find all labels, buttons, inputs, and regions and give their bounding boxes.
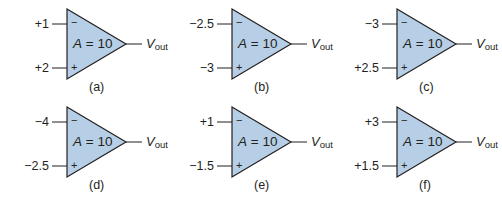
gain-rest: = 10	[412, 36, 442, 51]
inverting-input-value: −3	[365, 17, 379, 31]
figure-caption: (b)	[254, 80, 269, 94]
output-label: Vout	[476, 36, 498, 52]
noninverting-terminal-sign: +	[236, 61, 242, 73]
vout-sub: out	[485, 139, 498, 150]
inverting-terminal-sign: −	[401, 16, 407, 28]
op-amp-circuit-c: −3 +2.5 − + A = 10 Vout (c)	[330, 0, 497, 99]
noninverting-terminal-sign: +	[71, 159, 77, 171]
figure-caption: (f)	[419, 178, 431, 192]
gain-label: A = 10	[238, 36, 277, 51]
op-amp-circuit-e: +1 −1.5 − + A = 10 Vout (e)	[165, 98, 332, 197]
gain-var: A	[238, 134, 247, 149]
noninverting-terminal-sign: +	[401, 61, 407, 73]
inverting-input-value: +1	[200, 115, 214, 129]
inverting-input-value: +1	[35, 17, 49, 31]
inverting-terminal-sign: −	[236, 114, 242, 126]
vout-sub: out	[485, 41, 498, 52]
vout-main: V	[146, 36, 155, 51]
figure-caption: (e)	[254, 178, 269, 192]
inverting-terminal-sign: −	[236, 16, 242, 28]
noninverting-input-value: −3	[200, 61, 214, 75]
gain-label: A = 10	[403, 134, 442, 149]
gain-var: A	[73, 134, 82, 149]
gain-label: A = 10	[73, 134, 112, 149]
vout-main: V	[311, 134, 320, 149]
gain-label: A = 10	[403, 36, 442, 51]
op-amp-circuit-a: +1 +2 − + A = 10 Vout (a)	[0, 0, 167, 99]
op-amp-circuit-f: +3 +1.5 − + A = 10 Vout (f)	[330, 98, 497, 197]
noninverting-input-value: −1.5	[189, 159, 214, 173]
gain-rest: = 10	[247, 36, 277, 51]
inverting-terminal-sign: −	[71, 114, 77, 126]
inverting-terminal-sign: −	[401, 114, 407, 126]
gain-rest: = 10	[82, 36, 112, 51]
figure-caption: (a)	[89, 80, 104, 94]
gain-rest: = 10	[82, 134, 112, 149]
op-amp-circuit-b: −2.5 −3 − + A = 10 Vout (b)	[165, 0, 332, 99]
gain-var: A	[403, 36, 412, 51]
gain-var: A	[238, 36, 247, 51]
vout-main: V	[476, 134, 485, 149]
vout-main: V	[476, 36, 485, 51]
noninverting-terminal-sign: +	[71, 61, 77, 73]
gain-label: A = 10	[73, 36, 112, 51]
figure-caption: (c)	[419, 80, 434, 94]
inverting-input-value: −2.5	[189, 17, 214, 31]
gain-rest: = 10	[412, 134, 442, 149]
noninverting-terminal-sign: +	[236, 159, 242, 171]
inverting-terminal-sign: −	[71, 16, 77, 28]
noninverting-input-value: −2.5	[24, 159, 49, 173]
inverting-input-value: −4	[35, 115, 49, 129]
noninverting-input-value: +1.5	[354, 159, 379, 173]
noninverting-terminal-sign: +	[401, 159, 407, 171]
vout-main: V	[311, 36, 320, 51]
gain-var: A	[73, 36, 82, 51]
gain-label: A = 10	[238, 134, 277, 149]
output-label: Vout	[476, 134, 498, 150]
figure-caption: (d)	[89, 178, 104, 192]
noninverting-input-value: +2.5	[354, 61, 379, 75]
gain-rest: = 10	[247, 134, 277, 149]
noninverting-input-value: +2	[35, 61, 49, 75]
gain-var: A	[403, 134, 412, 149]
inverting-input-value: +3	[365, 115, 379, 129]
vout-main: V	[146, 134, 155, 149]
op-amp-circuit-d: −4 −2.5 − + A = 10 Vout (d)	[0, 98, 167, 197]
